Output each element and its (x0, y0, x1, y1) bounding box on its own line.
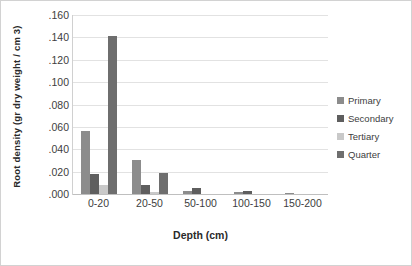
legend-label: Primary (348, 95, 381, 106)
y-tick-label: .100 (29, 76, 69, 88)
bar (183, 191, 192, 194)
x-tick-label: 50-100 (175, 197, 226, 209)
bar-group (277, 15, 328, 194)
legend-label: Secondary (348, 113, 393, 124)
legend-item[interactable]: Tertiary (337, 127, 409, 145)
legend-item[interactable]: Quarter (337, 145, 409, 163)
x-tick-label: 0-20 (73, 197, 124, 209)
legend-swatch-icon (337, 151, 344, 158)
plot-area (73, 15, 328, 194)
bar (150, 192, 159, 194)
bar (108, 36, 117, 194)
x-tick-label: 100-150 (226, 197, 277, 209)
y-tick-label: .080 (29, 99, 69, 111)
y-axis-tick-labels: .160.140.120.100.080.060.040.020.000 (23, 15, 69, 194)
y-tick-label: .040 (29, 143, 69, 155)
bar (234, 192, 243, 194)
bar (99, 185, 108, 194)
gridline (73, 194, 328, 195)
bar (243, 191, 252, 194)
bar-group (73, 15, 124, 194)
legend-swatch-icon (337, 133, 344, 140)
y-tick-label: .000 (29, 188, 69, 200)
y-tick-label: .160 (29, 9, 69, 21)
y-tick-label: .020 (29, 166, 69, 178)
legend-item[interactable]: Secondary (337, 109, 409, 127)
legend-item[interactable]: Primary (337, 91, 409, 109)
y-tick-label: .140 (29, 31, 69, 43)
bar (192, 188, 201, 194)
bar (90, 174, 99, 194)
bar-group (124, 15, 175, 194)
bar (141, 185, 150, 194)
legend-swatch-icon (337, 115, 344, 122)
legend-swatch-icon (337, 97, 344, 104)
x-tick-label: 20-50 (124, 197, 175, 209)
legend: PrimarySecondaryTertiaryQuarter (337, 91, 409, 163)
y-tick-label: .060 (29, 121, 69, 133)
bar (285, 193, 294, 194)
bar (81, 131, 90, 194)
legend-label: Quarter (348, 149, 380, 160)
legend-label: Tertiary (348, 131, 379, 142)
bar-series-container (73, 15, 328, 194)
y-axis-title-text: Root density (gr dry weight / cm 3) (11, 25, 22, 187)
x-axis-tick-labels: 0-2020-5050-100100-150150-200 (73, 197, 328, 209)
y-tick-label: .120 (29, 54, 69, 66)
bar (159, 173, 168, 194)
bar (132, 160, 141, 194)
chart-container: Root density (gr dry weight / cm 3) .160… (0, 0, 412, 266)
x-tick-label: 150-200 (277, 197, 328, 209)
bar-group (226, 15, 277, 194)
x-axis-title: Depth (cm) (73, 229, 328, 241)
bar-group (175, 15, 226, 194)
